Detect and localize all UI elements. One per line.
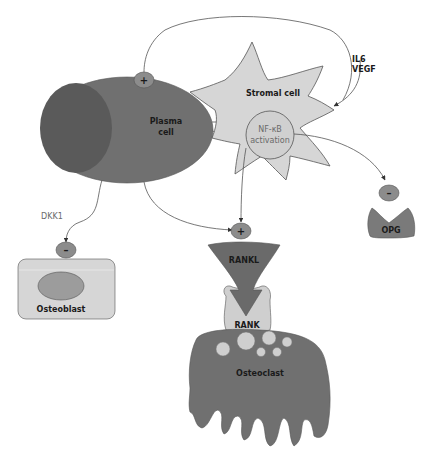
- opg-minus-sign: –: [387, 188, 392, 199]
- dkk1-label: DKK1: [41, 212, 63, 221]
- plasma-cell-nucleus: [40, 83, 112, 173]
- vegf-label: VEGF: [352, 65, 376, 74]
- edge-plasma-to-rankl: [144, 182, 232, 230]
- rankl-label: RANKL: [229, 256, 259, 265]
- plasma-plus-sign: +: [140, 75, 148, 86]
- stromal-cell-shape: [190, 42, 334, 180]
- osteoclast-shape: [189, 329, 330, 446]
- nfkb-label-line2: activation: [250, 136, 290, 145]
- edge-plasma-to-osteoblast: [66, 180, 102, 242]
- osteoclast-vesicle: [262, 331, 276, 345]
- osteoblast-label: Osteoblast: [37, 305, 86, 314]
- opg-label: OPG: [381, 226, 400, 235]
- rank-label: RANK: [234, 321, 260, 330]
- plasma-cell-label-line2: cell: [158, 128, 174, 137]
- nfkb-activation-node: [246, 111, 294, 159]
- osteoclast-vesicle: [282, 337, 292, 347]
- osteoclast-label: Osteoclast: [236, 369, 284, 378]
- osteoblast-minus-sign: –: [64, 245, 69, 256]
- osteoblast-nucleus: [38, 272, 84, 300]
- osteoclast-vesicle: [257, 348, 266, 357]
- plasma-cell-label-line1: Plasma: [150, 117, 183, 126]
- stromal-cell-label: Stromal cell: [246, 89, 300, 98]
- osteoclast-vesicle: [273, 348, 282, 357]
- il6-label: IL6: [352, 55, 366, 64]
- osteoclast-vesicle: [216, 342, 230, 356]
- bone-disease-diagram: Stromal cell NF-κB activation Plasma cel…: [0, 0, 437, 461]
- rankl-plus-sign: +: [237, 226, 245, 237]
- nfkb-label-line1: NF-κB: [258, 125, 282, 134]
- osteoclast-vesicle: [237, 332, 255, 350]
